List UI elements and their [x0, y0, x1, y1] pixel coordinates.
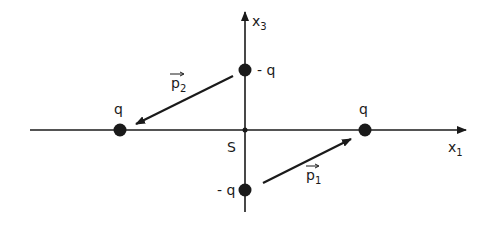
charge-right-label: q — [359, 102, 368, 116]
charge-bottom-label: - q — [217, 183, 235, 197]
charge-right — [359, 124, 372, 137]
charge-top-label: - q — [257, 63, 275, 77]
diagram-canvas — [0, 0, 487, 235]
origin-label: S — [227, 140, 236, 154]
origin-point — [243, 128, 248, 133]
x1-axis-label: x1 — [448, 140, 463, 158]
vector-p2-label: p2 — [171, 76, 186, 94]
charge-left-label: q — [114, 102, 123, 116]
charge-top — [239, 64, 252, 77]
charge-left — [114, 124, 127, 137]
vector-p1-label: p1 — [306, 168, 321, 186]
charge-bottom — [239, 184, 252, 197]
x3-axis-label: x3 — [252, 14, 267, 32]
